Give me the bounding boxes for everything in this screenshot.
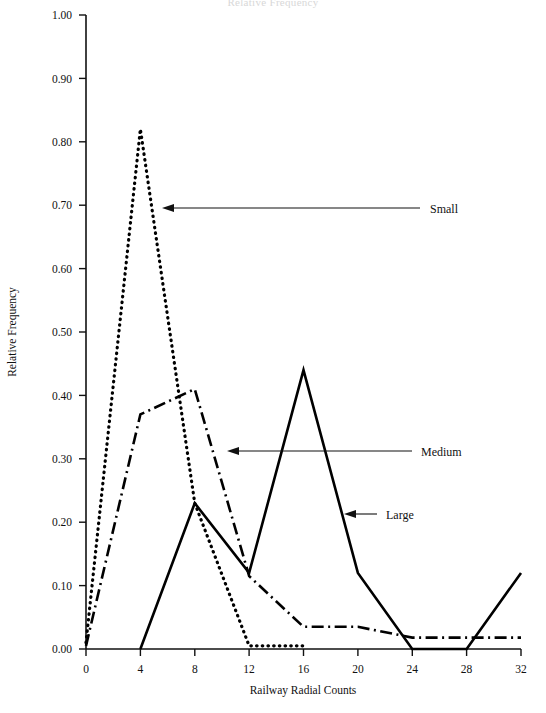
x-tick-label: 24 [407, 663, 419, 675]
annotation-group: Small Medium Large [162, 202, 462, 522]
annotation-label-medium: Medium [421, 445, 462, 459]
series-line-medium [86, 389, 521, 646]
x-tick-label: 0 [83, 663, 89, 675]
y-tick-label: 0.80 [52, 136, 72, 148]
annotation-large: Large [344, 508, 414, 522]
x-tick-label: 32 [515, 663, 527, 675]
chart-plot-area: 0.00 0.10 0.20 0.30 0.40 0.50 0.60 0.70 … [0, 0, 546, 713]
y-axis-ticks [79, 15, 86, 649]
y-axis-tick-labels: 0.00 0.10 0.20 0.30 0.40 0.50 0.60 0.70 … [52, 9, 72, 655]
y-tick-label: 0.30 [52, 453, 72, 465]
x-tick-label: 20 [352, 663, 364, 675]
annotation-label-large: Large [386, 508, 414, 522]
annotation-medium: Medium [227, 445, 462, 459]
x-tick-label: 12 [243, 663, 255, 675]
annotation-label-small: Small [430, 202, 459, 216]
x-axis-tick-labels: 0 4 8 12 16 20 24 28 32 [83, 663, 527, 675]
y-tick-label: 0.20 [52, 516, 72, 528]
x-axis-title: Railway Radial Counts [250, 684, 357, 697]
x-tick-label: 8 [192, 663, 198, 675]
annotation-small: Small [162, 202, 459, 216]
y-tick-label: 0.40 [52, 390, 72, 402]
y-tick-label: 0.90 [52, 73, 72, 85]
y-tick-label: 0.60 [52, 263, 72, 275]
y-tick-label: 0.70 [52, 199, 72, 211]
x-tick-label: 4 [138, 663, 144, 675]
x-tick-label: 28 [461, 663, 473, 675]
chart-container: Relative Frequency 0.00 0.10 0.20 0.30 0… [0, 0, 546, 713]
y-tick-label: 1.00 [52, 9, 72, 21]
series-line-small [86, 129, 304, 646]
y-axis-title: Relative Frequency [6, 287, 19, 377]
x-tick-label: 16 [298, 663, 310, 675]
y-tick-label: 0.10 [52, 580, 72, 592]
y-tick-label: 0.00 [52, 643, 72, 655]
y-tick-label: 0.50 [52, 326, 72, 338]
